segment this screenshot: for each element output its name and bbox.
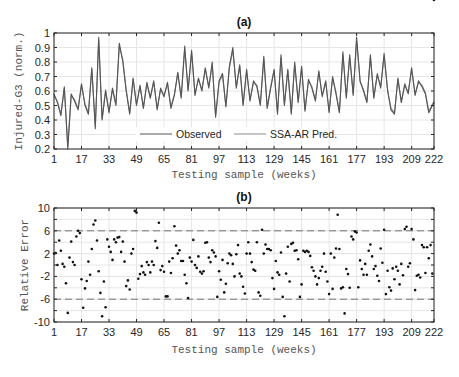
data-point [168, 260, 171, 263]
data-point [156, 247, 159, 250]
x-tick-label: 1 [51, 153, 57, 165]
data-point [237, 244, 240, 247]
data-point [428, 257, 431, 260]
x-tick-label: 129 [265, 326, 283, 338]
x-tick-label: 49 [130, 326, 142, 338]
data-point [343, 312, 346, 315]
data-point [218, 270, 221, 273]
data-point [347, 273, 350, 276]
data-point [209, 261, 212, 264]
data-point [422, 246, 425, 249]
data-point [299, 296, 302, 299]
data-point [433, 0, 436, 1]
data-point [412, 238, 415, 241]
data-point [324, 271, 327, 274]
data-point [257, 291, 260, 294]
data-point [275, 260, 278, 263]
data-point [361, 268, 364, 271]
data-point [352, 238, 355, 241]
data-point [70, 240, 73, 243]
data-point [190, 260, 193, 263]
data-point [232, 263, 235, 266]
data-point [371, 255, 374, 258]
data-point [345, 268, 348, 271]
data-point [170, 272, 173, 275]
data-point [75, 235, 78, 238]
data-point [221, 259, 224, 262]
data-point [312, 269, 315, 272]
data-point [292, 242, 295, 245]
y-tick-label: 0.7 [35, 71, 50, 83]
plot-b-title: (b) [236, 190, 251, 204]
data-point [115, 241, 118, 244]
y-tick-label: 0.2 [35, 143, 50, 155]
y-tick-label: 10 [38, 202, 50, 214]
data-point [249, 252, 252, 255]
x-tick-label: 113 [238, 326, 256, 338]
figure: (a) 117334965819711312914516117719320922… [0, 0, 459, 377]
x-tick-label: 161 [320, 326, 338, 338]
x-tick-label: 145 [292, 326, 310, 338]
data-point [67, 312, 70, 315]
data-point [183, 273, 186, 276]
data-point [326, 280, 329, 283]
data-point [154, 240, 157, 243]
data-point [336, 214, 339, 217]
data-point [235, 253, 238, 256]
x-tick-label: 222 [425, 153, 443, 165]
x-tick-label: 97 [213, 326, 225, 338]
data-point [242, 285, 245, 288]
data-point [127, 279, 130, 282]
x-tick-label: 97 [213, 153, 225, 165]
data-point [280, 251, 283, 254]
data-point [417, 273, 420, 276]
data-point [73, 264, 76, 267]
data-point [118, 236, 121, 239]
data-point [244, 292, 247, 295]
data-point [96, 239, 99, 242]
data-point [283, 315, 286, 318]
data-point [307, 251, 310, 254]
data-point [175, 244, 178, 247]
data-point [271, 277, 274, 280]
data-point [350, 235, 353, 238]
data-point [177, 252, 180, 255]
x-tick-label: 161 [320, 153, 338, 165]
data-point [330, 252, 333, 255]
data-point [149, 271, 152, 274]
data-point [120, 251, 123, 254]
x-tick-label: 129 [265, 153, 283, 165]
data-point [220, 279, 223, 282]
data-point [400, 263, 403, 266]
data-point [125, 285, 128, 288]
data-point [85, 280, 88, 283]
data-point [424, 272, 427, 275]
data-point [414, 289, 417, 292]
data-point [364, 263, 367, 266]
data-point [391, 267, 394, 270]
data-point [108, 246, 111, 249]
data-point [402, 274, 405, 277]
data-point [409, 262, 412, 265]
data-point [331, 288, 334, 291]
data-point [147, 264, 150, 267]
data-point [80, 278, 83, 281]
data-point [187, 297, 190, 300]
data-point [214, 255, 217, 258]
data-point [309, 255, 312, 258]
data-point [385, 293, 388, 296]
data-point [185, 282, 188, 285]
data-point [226, 262, 229, 265]
data-point [166, 295, 169, 298]
data-point [369, 243, 372, 246]
data-point [431, 272, 434, 275]
data-point [278, 273, 281, 276]
data-point [91, 248, 94, 251]
data-point [87, 260, 90, 263]
data-point [101, 315, 104, 318]
data-point [238, 272, 241, 275]
y-tick-label: 0.3 [35, 129, 50, 141]
data-point [386, 269, 389, 272]
data-point [144, 273, 147, 276]
data-point [319, 269, 322, 272]
